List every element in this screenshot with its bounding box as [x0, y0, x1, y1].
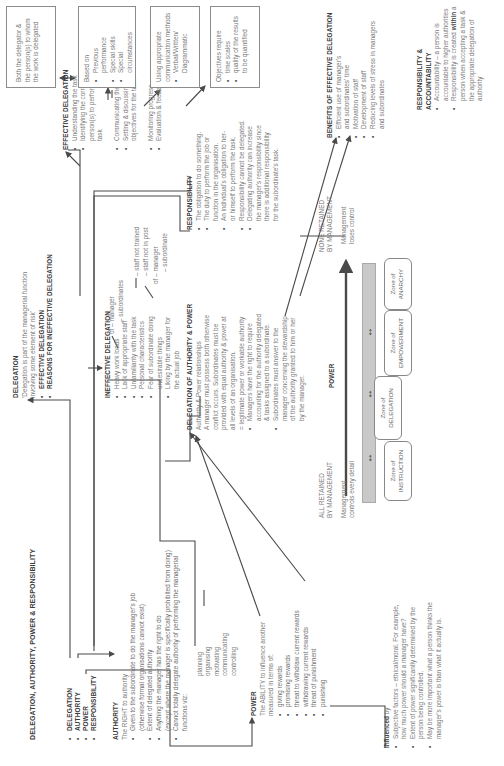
influenced-section: Influenced by Subjective factors – ethic… [383, 548, 443, 748]
responsibility-item: Responsibility cannot be delegated. [238, 95, 247, 230]
function-planning: planning [196, 633, 204, 676]
power-item: withdrawing current rewards [302, 566, 311, 716]
benefits-item: Reducing levels of stress in managers [369, 0, 378, 138]
power-item: threat to withdraw current rewards [293, 566, 302, 716]
box-label: communication methods [164, 12, 173, 82]
responsibility-item: there is additional responsibility [263, 95, 272, 230]
responsibility-item: or himself to perform the task. [229, 95, 238, 230]
note-staff-not-in-post: – staff not in post [142, 227, 151, 276]
benefits-item: Efficient use of manager's [335, 0, 344, 138]
authority-item: Given to the subordinate to do the manag… [129, 500, 138, 740]
ineffective-item: undesirable things [156, 268, 165, 398]
benefits-item: Development of staff [360, 0, 369, 138]
box-communication: Using appropriate communication methods … [150, 6, 200, 88]
topic-authority: AUTHORITY [74, 675, 82, 740]
doa-line: all levels of an organisation. [229, 270, 238, 430]
accountability-item: accountable to higher authorities [442, 0, 451, 110]
responsibility-item: function in the organisation. [212, 95, 221, 230]
box-label: Based on [83, 12, 92, 82]
topic-power: POWER [82, 675, 90, 740]
note-subordinate-2: – subordinate [161, 233, 170, 272]
zone-label: ANARCHY [397, 259, 405, 309]
box-item: Diagrammatic [181, 12, 190, 82]
accountability-item: Accountability – a person is [433, 0, 442, 110]
benefits-heading: BENEFITS OF EFFECTIVE DELEGATION [326, 0, 335, 138]
authority-item: Extent of delegated authority [146, 500, 155, 740]
authority-item: Cannot totally delegate authority of per… [172, 500, 181, 740]
power-intro2: measured in terms of: [267, 566, 276, 716]
doa-line: A manager must possess both otherwise [203, 270, 212, 430]
authority-heading: AUTHORITY [112, 500, 121, 740]
scale-power-label: POWER [328, 364, 337, 388]
effective-heading: EFFECTIVE DELEGATION [62, 40, 71, 150]
function-communicating: communicating [221, 633, 229, 676]
doa-section: DELEGATION OF AUTHORITY & POWER Authorit… [186, 270, 306, 430]
scale-right-title: NONE RETAINED BY MANAGEMENT [318, 196, 334, 252]
scale-left-line: ALL RETAINED [318, 462, 326, 518]
zone-empowerment: Zone of EMPOWERMENT [384, 310, 412, 376]
delegation-quote: 'Delegation is part of the managerial fu… [21, 178, 30, 398]
doa-line: Authority & Power relationships [195, 270, 204, 430]
influenced-item: Extent of power significantly determined… [409, 548, 418, 748]
note-subordinates: – subordinates [117, 280, 126, 322]
ineffective-item: Fear of subordinate doing [147, 268, 156, 398]
zone-instruction: Zone of INSTRUCTION [384, 441, 412, 501]
accountability-heading: RESPONSIBILITY & ACCOUNTABILITY [416, 0, 433, 110]
scale-right-line: Management [340, 207, 348, 244]
box-label: Objectives require [215, 12, 224, 82]
doa-item: & tasks assigned to a subordinate. [263, 270, 272, 430]
doa-item: accounting for the authority delegated [255, 270, 264, 430]
responsibility-item: for the subordinate's task. [272, 95, 281, 230]
accountability-item: person when accepting a task & [459, 0, 468, 110]
zone-label: EMPOWERMENT [397, 311, 405, 375]
authority-item: (otherwise formal organisations cannot e… [138, 500, 147, 740]
influenced-item: May be more important what a person thin… [426, 548, 435, 748]
zone-label: Zone of [379, 377, 387, 439]
function-organising: organising [204, 633, 212, 676]
zone-label: Zone of [389, 259, 397, 309]
power-section: POWER The ABILITY to influence another m… [250, 566, 327, 716]
authority-item: functions viz: [181, 500, 190, 740]
function-controlling: controlling [230, 633, 238, 676]
doa-item: manager concerning the stewardship [281, 270, 290, 430]
doa-item: Managers have the right to require [246, 270, 255, 430]
influenced-item: Subjective factors – ethical/moral. For … [392, 548, 401, 748]
emphasis-within: within [450, 12, 457, 30]
box-item: Special skills [109, 12, 118, 82]
scale-left-sub: Management controls every detail [340, 461, 356, 518]
box-item: quality of the results [232, 12, 241, 82]
page-title: DELEGATION, AUTHORITY, POWER & RESPONSIB… [29, 549, 38, 740]
scale-right-line: loses control [348, 207, 356, 244]
delegation-section: DELEGATION 'Delegation is part of the ma… [12, 178, 55, 398]
box-objectives: Objectives require time scales quality o… [210, 6, 260, 88]
doa-line: conflict occurs. Subordinates must be [212, 270, 221, 430]
accountability-item: Responsibility is created within a [450, 0, 459, 110]
scale-right-line: NONE RETAINED [318, 196, 326, 252]
responsibility-item: The obligation to do something. [195, 95, 204, 230]
zone-label: DELEGATION [387, 377, 395, 439]
doa-item: by the manager. [298, 270, 307, 430]
doa-line: = legitimate power or workable authority [238, 270, 247, 430]
topic-responsibility: RESPONSIBILITY [90, 675, 98, 740]
power-intro: The ABILITY to influence another [259, 566, 268, 716]
box-line: Both the delegator & [15, 12, 24, 82]
doa-item: of the authority granted to him or her [289, 270, 298, 430]
power-item: promising rewards [284, 566, 293, 716]
box-item: Special circumstances [117, 12, 134, 82]
box-item: to be quantified [241, 12, 250, 82]
scale-left-line: controls every detail [348, 461, 356, 518]
responsibility-item: Delegating authority can increase [246, 95, 255, 230]
ineffective-item: Liking by the manager for [164, 268, 173, 398]
ineffective-item: the actual job [173, 268, 182, 398]
accountability-item: the appropriate delegation of [468, 0, 477, 110]
box-item: Previous performance [92, 12, 109, 82]
accountability-section: RESPONSIBILITY & ACCOUNTABILITY Accounta… [416, 0, 485, 110]
doa-line: provided with equal authority & power at [220, 270, 229, 430]
delegation-quote: involving some element of risk' [29, 178, 38, 398]
ineffective-item: Unfamiliarity with the task [130, 268, 139, 398]
note-staff-not-trained: – staff not trained [133, 227, 142, 276]
doa-heading: DELEGATION OF AUTHORITY & POWER [186, 270, 195, 430]
delegation-item-reasons: REASONS FOR INEFFECTIVE DELEGATION [46, 178, 55, 398]
influenced-suffix: by [383, 708, 390, 717]
box-both-parties: Both the delegator & the person(s) to wh… [6, 6, 56, 88]
